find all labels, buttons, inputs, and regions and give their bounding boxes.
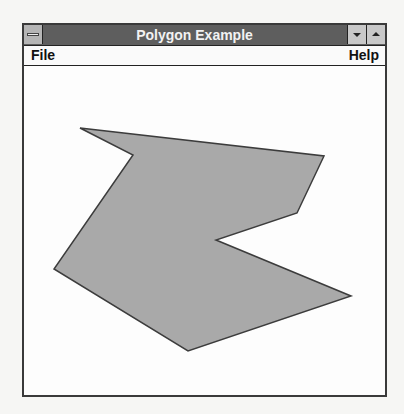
polygon-example-window: Polygon Example File Help <box>22 23 387 397</box>
client-area <box>24 66 385 395</box>
polygon-shape <box>54 128 351 351</box>
drawing-canvas <box>0 2 404 414</box>
